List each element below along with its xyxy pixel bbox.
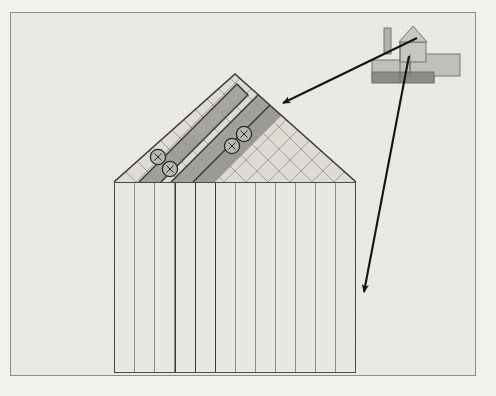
detail-callout-arrow — [364, 56, 409, 292]
column-protective-cover-for-soleplate[interactable]: Protective cover for soleplate — [316, 183, 336, 372]
column-time-required-450f-to-100f[interactable]: Time required to go from 450° to 100° F — [296, 183, 316, 372]
technical-requirements-columns: Energy needed to press Weight of iron Si… — [114, 182, 356, 373]
correlation-mark-strong-1 — [150, 149, 165, 164]
column-number-of-holes[interactable]: Number of holes — [216, 183, 236, 372]
column-material-used-for-soleplate[interactable]: Material used for soleplate — [196, 183, 216, 372]
column-energy-needed-to-press[interactable]: Energy needed to press — [115, 183, 135, 372]
column-time-required-to-reach-450f[interactable]: Time required to reach 450° F — [276, 183, 296, 372]
column-weight-of-iron[interactable]: Weight of iron — [135, 183, 155, 372]
diagram-canvas: Energy needed to press Weight of iron Si… — [0, 0, 496, 396]
correlation-mark-strong-2 — [162, 161, 177, 176]
correlation-mark-strong-4 — [236, 126, 251, 141]
inset-basement-bar — [372, 72, 434, 83]
column-flow-of-water-from-holes[interactable]: Flow of water from holes — [256, 183, 276, 372]
column-size-of-holes[interactable]: Size of holes — [236, 183, 256, 372]
column-size-of-soleplate[interactable]: Size of soleplate — [155, 183, 175, 372]
column-thickness-of-soleplate[interactable]: Thickness of soleplate — [175, 183, 196, 372]
correlation-mark-strong-3 — [224, 138, 239, 153]
column-automatic-shut-off[interactable]: Automatic shut-off — [336, 183, 355, 372]
roof-matrix — [70, 28, 400, 182]
